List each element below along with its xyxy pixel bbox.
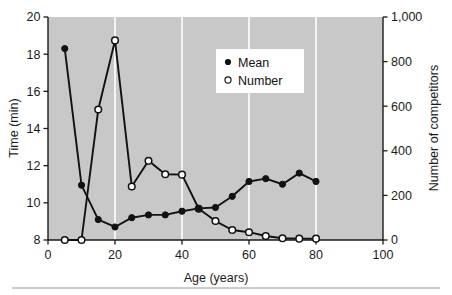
datapoint-number-age-70 [279,235,286,242]
x-tick-label-0: 0 [45,248,52,262]
y-right-tick-label-1000: 1,000 [391,10,422,24]
y-left-tick-label-16: 16 [27,85,41,99]
y-left-tick-label-20: 20 [27,10,41,24]
datapoint-mean-age-35 [162,212,168,218]
legend-label-mean: Mean [238,56,269,70]
datapoint-number-age-30 [145,158,152,165]
datapoint-mean-age-5 [62,45,68,51]
datapoint-mean-age-10 [78,182,84,188]
chart-legend: Mean Number [216,49,304,93]
datapoint-number-age-40 [179,171,186,178]
y-right-tick-label-0: 0 [391,233,398,247]
datapoint-mean-age-20 [112,224,118,230]
x-tick-label-60: 60 [242,248,256,262]
y-left-axis-title: Time (min) [7,98,21,157]
datapoint-mean-age-45 [196,205,202,211]
datapoint-mean-age-60 [246,178,252,184]
chart-figure: 8101214161820 02004006008001,000 0204060… [0,0,452,295]
legend-marker-mean-filled-circle-icon [225,59,231,65]
legend-marker-number-open-circle-icon [225,77,231,83]
datapoint-mean-age-25 [129,215,135,221]
datapoint-mean-age-15 [95,216,101,222]
datapoint-number-age-55 [229,227,236,234]
x-tick-label-40: 40 [175,248,189,262]
datapoint-mean-age-40 [179,208,185,214]
datapoint-mean-age-55 [229,193,235,199]
datapoint-mean-age-65 [263,176,269,182]
legend-label-number: Number [238,74,282,88]
datapoint-mean-age-30 [145,212,151,218]
datapoint-number-age-35 [162,171,169,178]
x-tick-label-100: 100 [373,248,394,262]
datapoint-number-age-80 [313,235,320,242]
competitor-time-vs-age-chart: 8101214161820 02004006008001,000 0204060… [0,0,452,295]
x-tick-label-80: 80 [309,248,323,262]
y-right-tick-label-600: 600 [391,100,412,114]
y-left-tick-label-18: 18 [27,48,41,62]
datapoint-number-age-5 [61,237,68,244]
y-right-tick-label-800: 800 [391,55,412,69]
datapoint-number-age-65 [262,233,269,240]
datapoint-mean-age-80 [313,178,319,184]
y-right-tick-label-200: 200 [391,189,412,203]
datapoint-number-age-25 [128,183,135,190]
datapoint-number-age-60 [246,229,253,236]
y-left-tick-label-10: 10 [27,196,41,210]
x-axis-title: Age (years) [184,271,249,285]
x-tick-label-20: 20 [108,248,122,262]
datapoint-number-age-15 [95,106,102,113]
y-right-axis-title: Number of competitors [427,65,441,191]
y-left-tick-label-14: 14 [27,122,41,136]
y-left-tick-label-12: 12 [27,159,41,173]
datapoint-number-age-10 [78,237,85,244]
datapoint-number-age-20 [112,37,119,44]
y-right-tick-label-400: 400 [391,144,412,158]
datapoint-number-age-50 [212,218,219,225]
datapoint-number-age-75 [296,235,303,242]
datapoint-mean-age-50 [212,204,218,210]
y-left-tick-label-8: 8 [34,233,41,247]
datapoint-mean-age-70 [279,181,285,187]
datapoint-mean-age-75 [296,170,302,176]
